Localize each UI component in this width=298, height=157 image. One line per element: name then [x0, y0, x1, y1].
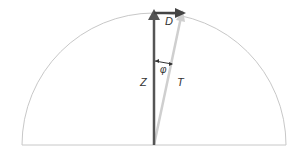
D-label: D	[165, 15, 173, 27]
diagram: D Z T φ	[0, 0, 298, 157]
vector-diagram-svg	[0, 0, 298, 157]
T-label: T	[177, 76, 184, 88]
phi-arrowhead-left	[155, 59, 159, 63]
Z-label: Z	[140, 76, 147, 88]
phi-label: φ	[160, 64, 167, 75]
Z-arrowhead	[148, 9, 160, 20]
